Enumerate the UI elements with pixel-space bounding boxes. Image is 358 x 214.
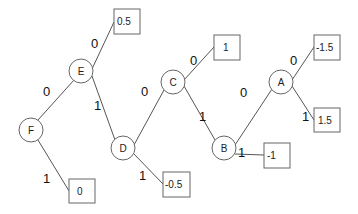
leaf-value: 1.5	[318, 115, 332, 126]
edge-label-F-E: 0	[43, 84, 50, 99]
node-D: D	[111, 136, 135, 160]
node-A: A	[269, 70, 293, 94]
node-label-A: A	[278, 77, 285, 88]
edge-label-C-leaf-1: 0	[190, 53, 197, 68]
leaf-minus-1: -1	[264, 143, 290, 168]
leaf-value: 1	[223, 42, 229, 53]
leaf-minus-0.5: -0.5	[163, 172, 190, 197]
node-label-E: E	[78, 66, 85, 77]
node-label-D: D	[119, 143, 126, 154]
leaf-1: 1	[214, 35, 240, 60]
node-C: C	[161, 70, 185, 94]
leaf-value: -0.5	[165, 179, 183, 190]
leaf-value: -1	[267, 150, 276, 161]
edge-label-E-leaf-0.5: 0	[91, 36, 98, 51]
leaf-nodes: 0.5 0 -0.5 1 -1 -1.5 1.5	[69, 9, 340, 203]
edge-label-A-leaf-1.5: 1	[302, 109, 309, 124]
leaf-value: -1.5	[316, 42, 334, 53]
edge-C-leaf-1	[184, 47, 214, 80]
leaf-value: 0.5	[117, 16, 131, 27]
edge-label-D-C: 0	[141, 84, 148, 99]
node-B: B	[212, 136, 236, 160]
edge-label-A-leaf-minus-1.5: 0	[290, 53, 297, 68]
decision-tree-diagram: 0 1 0 1 0 1 0 1 0 1 0 1 F E D C B	[0, 0, 358, 214]
leaf-value: 0	[77, 186, 83, 197]
edge-label-B-A: 0	[240, 85, 247, 100]
decision-nodes: F E D C B A	[19, 59, 293, 160]
leaf-1.5: 1.5	[314, 108, 340, 132]
edge-label-F-leaf-0: 1	[43, 171, 50, 186]
edge-label-D-leaf-minus-0.5: 1	[139, 168, 146, 183]
edge-label-E-D: 1	[94, 98, 101, 113]
node-label-C: C	[169, 77, 176, 88]
node-label-F: F	[28, 125, 34, 136]
node-E: E	[69, 59, 93, 83]
edge-label-B-leaf-minus-1: 1	[238, 145, 245, 160]
node-F: F	[19, 118, 43, 142]
leaf-minus-1.5: -1.5	[314, 35, 340, 60]
leaf-0: 0	[69, 179, 95, 203]
edge-D-C	[134, 90, 164, 145]
leaf-0.5: 0.5	[114, 9, 140, 34]
edge-label-C-B: 1	[199, 109, 206, 124]
node-label-B: B	[221, 143, 228, 154]
